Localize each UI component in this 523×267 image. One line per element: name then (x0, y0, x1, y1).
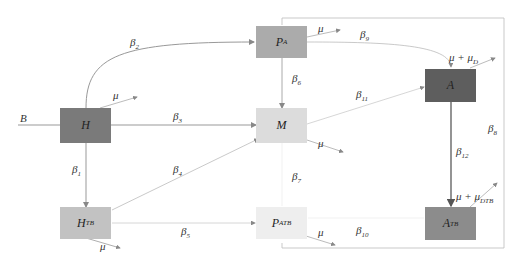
label-sub: 3 (178, 117, 182, 125)
node-PATB: PATB (256, 207, 307, 239)
label-sub: 10 (361, 231, 368, 239)
label-beta10: β10 (356, 224, 368, 239)
label-beta8: β8 (488, 122, 497, 137)
label-sub: 8 (493, 129, 497, 137)
label-sub: 5 (186, 232, 190, 240)
node-label: A (447, 78, 454, 93)
node-HTB: HTB (60, 207, 111, 239)
label-sub: 2 (135, 43, 139, 51)
label-sub: 9 (365, 35, 369, 43)
label-beta4: β4 (173, 163, 182, 178)
label-mu-HTB: μ (100, 240, 106, 252)
label-sub: D (473, 58, 478, 66)
label-mu-A: μ + μD (449, 51, 478, 66)
label-beta2: β2 (130, 36, 139, 51)
node-sub: TB (86, 219, 94, 227)
label-beta7: β7 (292, 170, 301, 185)
node-label: H (81, 118, 90, 133)
node-H: H (60, 108, 111, 143)
node-label: P (272, 216, 279, 231)
label-sub: 6 (297, 79, 301, 87)
label-sub: DTB (480, 197, 493, 205)
node-ATB: ATB (425, 207, 476, 240)
label-beta5: β5 (181, 225, 190, 240)
node-A: A (425, 69, 476, 102)
label-beta9: β9 (360, 28, 369, 43)
node-PA: PA (256, 26, 307, 58)
label-mu-M: μ (318, 137, 324, 149)
label-mu-H: μ (113, 89, 119, 101)
node-sub: TB (450, 220, 458, 228)
label-sub: 12 (461, 152, 468, 160)
node-sub: A (283, 38, 287, 46)
label-mu-PA: μ (318, 22, 324, 34)
label-beta3: β3 (173, 110, 182, 125)
label-sub: 4 (178, 170, 182, 178)
label-beta12: β12 (456, 145, 468, 160)
label-base: μ + μ (456, 190, 480, 202)
label-beta6: β6 (292, 72, 301, 87)
label-mu-ATB: μ + μDTB (456, 190, 493, 205)
node-M: M (256, 108, 307, 143)
label-base: μ + μ (449, 51, 473, 63)
node-label: P (276, 35, 283, 50)
label-mu-PATB: μ (318, 226, 324, 238)
label-beta11: β11 (356, 88, 368, 103)
node-sub: ATB (279, 219, 291, 227)
label-beta1: β1 (72, 163, 81, 178)
label-sub: 7 (297, 177, 301, 185)
node-label: H (77, 216, 86, 231)
label-sub: 1 (77, 170, 81, 178)
node-label: M (277, 118, 287, 133)
node-label: A (443, 216, 450, 231)
label-sub: 11 (361, 95, 367, 103)
label-B: B (20, 112, 27, 124)
